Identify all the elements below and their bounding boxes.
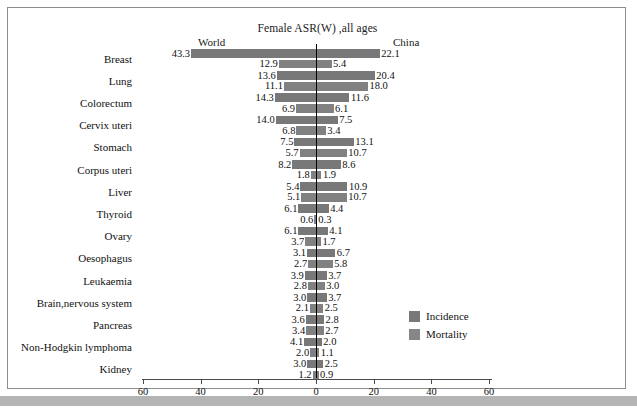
value-world-incidence: 13.6	[257, 71, 275, 80]
value-china-incidence: 2.8	[326, 315, 339, 324]
legend-item-mortality: Mortality	[409, 328, 469, 340]
value-china-incidence: 6.7	[337, 248, 350, 257]
value-china-mortality: 5.8	[334, 259, 347, 268]
legend-swatch-incidence	[409, 311, 420, 322]
chart-title: Female ASR(W) ,all ages	[8, 22, 627, 34]
bar-world-mortality	[308, 260, 316, 269]
value-world-mortality: 5.7	[285, 148, 298, 157]
bar-world-incidence	[298, 204, 316, 213]
category-label: Oesophagus	[78, 253, 132, 264]
value-world-mortality: 11.1	[265, 81, 283, 90]
value-china-incidence: 2.0	[323, 337, 336, 346]
bar-china-mortality	[316, 149, 347, 158]
value-world-mortality: 2.8	[294, 281, 307, 290]
value-china-mortality: 1.1	[321, 348, 334, 357]
category-label: Colorectum	[80, 98, 132, 109]
value-china-mortality: 0.3	[318, 215, 331, 224]
bar-china-incidence	[316, 49, 380, 58]
value-china-incidence: 4.1	[329, 226, 342, 235]
x-axis-tick	[431, 379, 432, 384]
x-axis-tick	[143, 379, 144, 384]
x-axis-line	[142, 379, 492, 380]
value-china-mortality: 1.9	[323, 170, 336, 179]
window-bottom-edge	[0, 406, 637, 414]
bar-world-mortality	[279, 60, 316, 69]
value-world-mortality: 3.4	[292, 326, 305, 335]
bar-china-incidence	[316, 160, 341, 169]
bar-world-incidence	[300, 182, 316, 191]
bar-world-incidence	[294, 138, 316, 147]
value-china-mortality: 5.4	[333, 59, 346, 68]
bar-world-mortality	[284, 82, 316, 91]
bar-world-incidence	[307, 249, 316, 258]
category-label: Thyroid	[97, 209, 132, 220]
value-world-incidence: 14.0	[256, 115, 274, 124]
bar-world-incidence	[191, 49, 316, 58]
value-world-mortality: 3.7	[291, 237, 304, 246]
x-axis-tick	[258, 379, 259, 384]
bar-china-incidence	[316, 71, 375, 80]
value-world-incidence: 3.9	[291, 271, 304, 280]
value-world-incidence: 3.0	[293, 359, 306, 368]
value-world-mortality: 2.7	[294, 259, 307, 268]
value-china-mortality: 3.4	[327, 126, 340, 135]
chart-frame: Female ASR(W) ,all ages World China 43.3…	[7, 7, 626, 389]
category-label: Ovary	[105, 231, 133, 242]
bar-world-mortality	[300, 149, 316, 158]
category-label: Pancreas	[93, 320, 132, 331]
value-world-incidence: 3.6	[292, 315, 305, 324]
bar-china-mortality	[316, 260, 333, 269]
value-china-incidence: 13.1	[355, 137, 373, 146]
bar-china-mortality	[316, 60, 332, 69]
bar-world-incidence	[305, 271, 316, 280]
value-china-incidence: 3.7	[328, 293, 341, 302]
bar-world-incidence	[298, 227, 316, 236]
value-china-incidence: 10.9	[349, 182, 367, 191]
value-china-mortality: 2.5	[325, 303, 338, 312]
category-label: Leukaemia	[83, 276, 132, 287]
category-label: Stomach	[94, 142, 133, 153]
value-china-mortality: 2.7	[325, 326, 338, 335]
value-world-incidence: 5.4	[286, 182, 299, 191]
value-china-incidence: 20.4	[376, 71, 394, 80]
value-world-incidence: 43.3	[172, 49, 190, 58]
value-china-incidence: 7.5	[339, 115, 352, 124]
value-world-mortality: 12.9	[259, 59, 277, 68]
window-bottom-bar	[0, 396, 637, 406]
value-china-mortality: 18.0	[369, 81, 387, 90]
value-china-incidence: 4.4	[330, 204, 343, 213]
legend-label-mortality: Mortality	[426, 328, 468, 340]
bar-china-mortality	[316, 193, 347, 202]
value-world-mortality: 0.6	[300, 215, 313, 224]
value-world-mortality: 2.0	[296, 348, 309, 357]
bar-world-mortality	[305, 237, 316, 246]
bar-world-incidence	[277, 71, 316, 80]
value-china-mortality: 10.7	[348, 192, 366, 201]
bar-world-incidence	[292, 160, 316, 169]
legend-label-incidence: Incidence	[426, 310, 469, 322]
value-world-mortality: 1.8	[297, 170, 310, 179]
value-world-mortality: 1.2	[298, 370, 311, 379]
value-china-mortality: 1.7	[322, 237, 335, 246]
value-world-incidence: 3.0	[293, 293, 306, 302]
chart-legend: Incidence Mortality	[409, 310, 469, 346]
bar-world-incidence	[307, 293, 316, 302]
bar-world-mortality	[306, 326, 316, 335]
bar-world-incidence	[276, 116, 316, 125]
value-china-mortality: 3.0	[326, 281, 339, 290]
category-label: Corpus uteri	[77, 165, 132, 176]
value-china-incidence: 3.7	[328, 271, 341, 280]
bar-china-mortality	[316, 126, 326, 135]
category-label: Lung	[109, 76, 132, 87]
value-world-incidence: 4.1	[290, 337, 303, 346]
category-label: Non-Hodgkin lymphoma	[21, 342, 132, 353]
bar-china-mortality	[316, 82, 368, 91]
value-world-incidence: 6.1	[284, 226, 297, 235]
bar-china-incidence	[316, 138, 354, 147]
bar-world-mortality	[296, 104, 316, 113]
x-axis-tick	[316, 379, 317, 384]
bar-china-incidence	[316, 227, 328, 236]
bar-china-incidence	[316, 182, 347, 191]
category-label: Cervix uteri	[79, 120, 132, 131]
bar-world-incidence	[304, 338, 316, 347]
